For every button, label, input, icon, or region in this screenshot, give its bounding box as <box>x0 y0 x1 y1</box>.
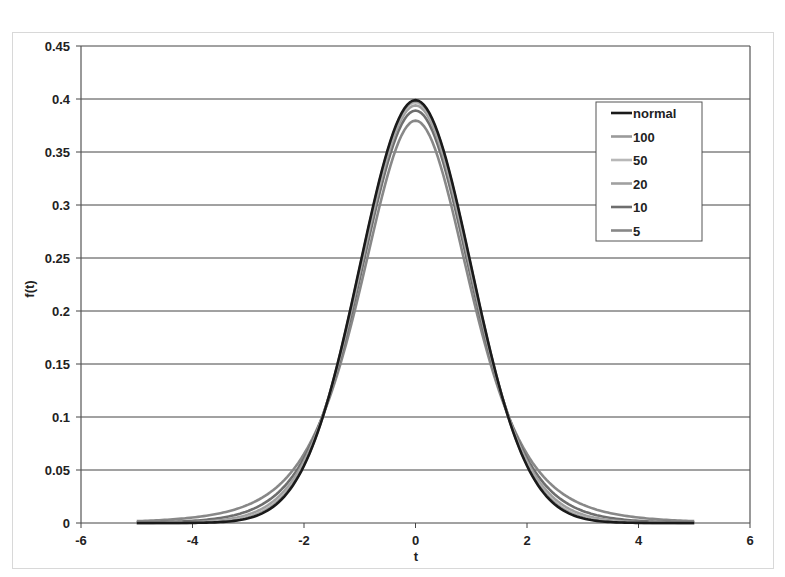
legend-label: 100 <box>633 130 655 145</box>
x-tick-label: -6 <box>75 533 87 548</box>
legend-box <box>596 102 702 241</box>
y-axis-title: f(t) <box>22 280 37 297</box>
y-tick-label: 0.2 <box>52 304 70 319</box>
y-tick-label: 0.4 <box>52 92 71 107</box>
y-tick-label: 0.3 <box>52 198 70 213</box>
y-tick-label: 0.25 <box>45 251 70 266</box>
x-tick-label: 2 <box>523 533 530 548</box>
x-axis-title: t <box>414 549 419 564</box>
x-tick-label: -2 <box>298 533 310 548</box>
x-tick-label: -4 <box>187 533 199 548</box>
legend-label: 5 <box>633 224 640 239</box>
x-tick-label: 6 <box>746 533 753 548</box>
legend-label: 10 <box>633 200 647 215</box>
y-tick-label: 0.35 <box>45 145 70 160</box>
x-tick-label: 0 <box>412 533 419 548</box>
y-tick-label: 0.1 <box>52 410 70 425</box>
y-tick-label: 0 <box>63 516 70 531</box>
y-tick-label: 0.05 <box>45 463 70 478</box>
legend-label: normal <box>633 106 676 121</box>
legend-label: 50 <box>633 153 647 168</box>
x-tick-label: 4 <box>635 533 643 548</box>
legend-label: 20 <box>633 177 647 192</box>
t-distribution-chart: 00.050.10.150.20.250.30.350.40.45-6-4-20… <box>0 0 785 577</box>
legend: normal1005020105 <box>596 102 702 241</box>
y-tick-label: 0.15 <box>45 357 70 372</box>
y-tick-label: 0.45 <box>45 39 70 54</box>
